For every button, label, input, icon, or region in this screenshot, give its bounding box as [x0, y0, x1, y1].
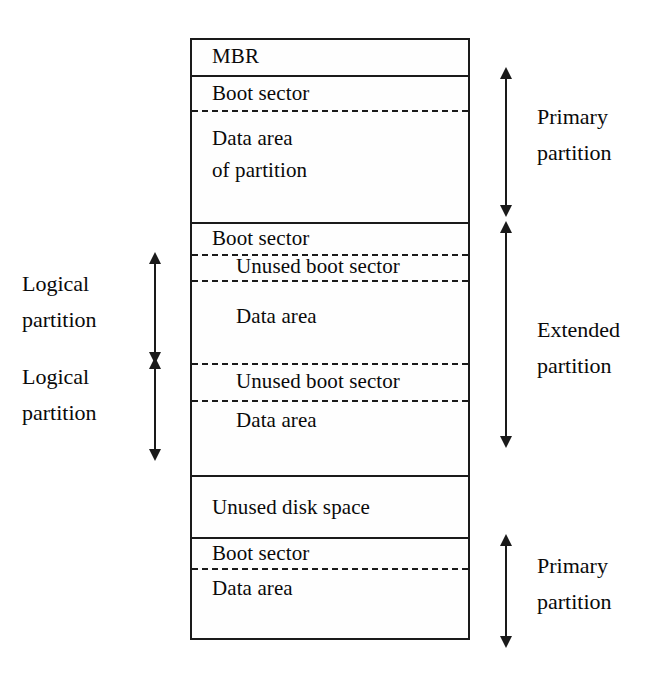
region-label-primary-data-area-line1: Data area	[212, 126, 293, 150]
label-primary-partition-top-line2: partition	[537, 135, 612, 171]
region-label-logical1-unused-boot-sector: Unused boot sector	[236, 254, 400, 278]
region-logical2-unused-boot-sector: Unused boot sector	[192, 363, 468, 400]
disk-box: MBR Boot sector Data area of partition B…	[190, 38, 470, 640]
region-label-logical2-data-area: Data area	[236, 408, 317, 432]
region-mbr: MBR	[192, 40, 468, 75]
label-logical-partition-1-line1: Logical	[22, 266, 97, 302]
region-label-primary2-data-area: Data area	[212, 576, 293, 600]
arrow-extended-partition	[505, 232, 507, 437]
region-label-logical2-unused-boot-sector: Unused boot sector	[236, 369, 400, 393]
region-label-unused-disk-space: Unused disk space	[212, 495, 370, 519]
label-primary-partition-top: Primary partition	[537, 99, 612, 171]
region-logical2-data-area: Data area	[192, 400, 468, 475]
label-logical-partition-2-line1: Logical	[22, 359, 97, 395]
region-logical1-data-area: Data area	[192, 280, 468, 363]
arrow-primary-partition-bottom	[505, 545, 507, 637]
region-primary-data-area: Data area of partition	[192, 110, 468, 222]
label-primary-partition-bottom-line1: Primary	[537, 548, 612, 584]
region-label-primary2-boot-sector: Boot sector	[212, 541, 309, 565]
region-logical1-unused-boot-sector: Unused boot sector	[192, 254, 468, 280]
region-primary2-boot-sector: Boot sector	[192, 537, 468, 568]
region-label-extended-boot-sector: Boot sector	[212, 226, 309, 250]
label-primary-partition-bottom: Primary partition	[537, 548, 612, 620]
label-extended-partition-line1: Extended	[537, 312, 620, 348]
label-logical-partition-1-line2: partition	[22, 302, 97, 338]
label-logical-partition-2: Logical partition	[22, 359, 97, 431]
region-primary-boot-sector: Boot sector	[192, 75, 468, 110]
arrow-logical-partition-1	[154, 263, 156, 353]
region-label-primary-boot-sector: Boot sector	[212, 81, 309, 105]
arrow-primary-partition-top	[505, 78, 507, 206]
arrow-logical-partition-2	[154, 368, 156, 450]
region-label-logical1-data-area: Data area	[236, 304, 317, 328]
label-primary-partition-bottom-line2: partition	[537, 584, 612, 620]
label-logical-partition-2-line2: partition	[22, 395, 97, 431]
label-extended-partition: Extended partition	[537, 312, 620, 384]
region-label-primary-data-area-line2: of partition	[212, 158, 307, 182]
label-primary-partition-top-line1: Primary	[537, 99, 612, 135]
region-unused-disk-space: Unused disk space	[192, 475, 468, 537]
region-extended-boot-sector: Boot sector	[192, 222, 468, 254]
region-label-mbr: MBR	[212, 44, 259, 68]
label-extended-partition-line2: partition	[537, 348, 620, 384]
partition-diagram: MBR Boot sector Data area of partition B…	[0, 0, 667, 688]
region-primary2-data-area: Data area	[192, 568, 468, 638]
label-logical-partition-1: Logical partition	[22, 266, 97, 338]
